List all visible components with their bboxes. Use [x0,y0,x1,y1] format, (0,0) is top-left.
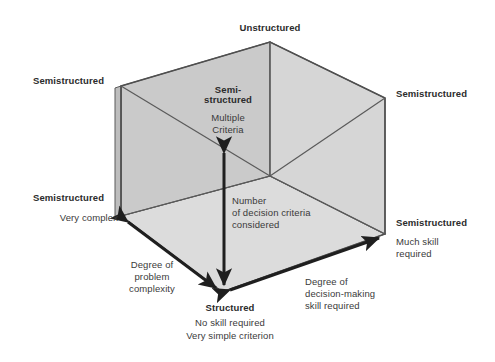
cube-face-front-left-slab [115,86,121,219]
label-semistructured-left-bottom: Semistructured [33,192,104,204]
label-much-skill: Much skill [396,236,439,248]
label-axis-considered: considered [232,219,279,231]
label-structured-bottom: Structured [205,302,254,314]
label-semistructured-left-top: Semistructured [33,75,104,87]
label-very-simple-criterion: Very simple criterion [186,330,274,342]
label-axis-complexity: complexity [129,283,175,295]
label-axis-of-decision-criteria: of decision criteria [232,207,311,219]
label-no-skill-required: No skill required [195,317,265,329]
label-criteria: Criteria [212,124,243,136]
label-axis-problem: problem [134,271,169,283]
label-multiple: Multiple [211,112,245,124]
diagram-canvas: Unstructured Semistructured Semistructur… [0,0,495,362]
label-axis-decision-making: decision-making [305,288,375,300]
label-very-complex: Very complex [60,212,118,224]
label-axis-degree-of-left: Degree of [131,259,174,271]
label-semistructured-right-bottom: Semistructured [396,217,467,229]
label-much-skill-required: required [396,248,432,260]
label-axis-degree-of-right: Degree of [305,276,348,288]
label-axis-skill-required: skill required [305,300,360,312]
label-unstructured-top: Unstructured [240,22,301,34]
label-semi-structured-line2: structured [204,94,252,106]
label-axis-number: Number [232,195,266,207]
label-semistructured-right-top: Semistructured [396,88,467,100]
